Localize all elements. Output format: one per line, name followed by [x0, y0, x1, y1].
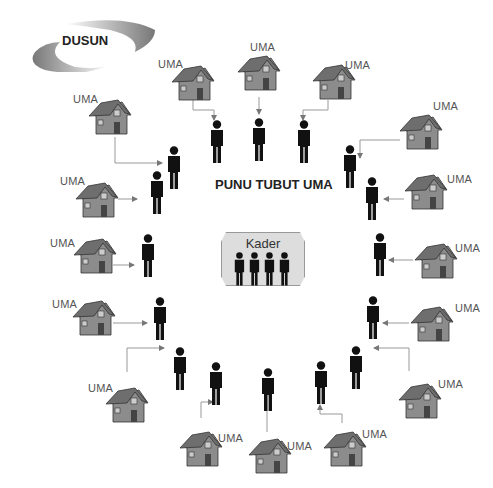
person-icon [173, 347, 187, 391]
house-label: UMA [52, 298, 77, 310]
house-label: UMA [447, 173, 472, 185]
house-icon [398, 382, 442, 420]
house-label: UMA [50, 237, 75, 249]
house-label: UMA [73, 93, 98, 105]
house-label: UMA [455, 242, 480, 254]
person-icon [343, 145, 357, 189]
house-icon [73, 237, 117, 275]
house-label: UMA [250, 41, 275, 53]
house-icon [323, 430, 367, 468]
person-icon [261, 368, 275, 412]
house-icon [237, 54, 281, 92]
person-icon [366, 296, 380, 340]
house-label: UMA [60, 175, 85, 187]
house-label: UMA [345, 59, 370, 71]
person-icon [210, 120, 224, 164]
person-icon [153, 297, 167, 341]
person-icon [373, 233, 387, 277]
house-label: UMA [455, 302, 480, 314]
person-icon [252, 118, 266, 162]
house-label: UMA [433, 100, 458, 112]
house-icon [399, 113, 443, 151]
house-icon [72, 299, 116, 337]
house-icon [410, 305, 454, 343]
house-icon [404, 173, 448, 211]
kader-person-icon [264, 252, 275, 286]
person-icon [209, 362, 223, 406]
kader-label: Kader [222, 236, 304, 251]
house-label: UMA [88, 382, 113, 394]
house-label: UMA [362, 428, 387, 440]
person-icon [150, 171, 164, 215]
house-label: UMA [438, 378, 463, 390]
kader-person-icon [234, 252, 245, 286]
person-icon [297, 120, 311, 164]
person-icon [349, 346, 363, 390]
house-icon [179, 430, 223, 468]
house-label: UMA [158, 58, 183, 70]
house-label: UMA [218, 432, 243, 444]
house-label: UMA [287, 440, 312, 452]
person-icon [141, 234, 155, 278]
person-icon [365, 177, 379, 221]
person-icon [167, 146, 181, 190]
person-icon [314, 361, 328, 405]
kader-person-icon [249, 252, 260, 286]
house-icon [414, 242, 458, 280]
house-icon [248, 437, 292, 475]
kader-person-icon [279, 252, 290, 286]
center-title: PUNU TUBUT UMA [215, 177, 333, 192]
diagram-canvas: DUSUN PUNU TUBUT UMA Kader UMAUMAUMAUMAU… [0, 0, 493, 488]
